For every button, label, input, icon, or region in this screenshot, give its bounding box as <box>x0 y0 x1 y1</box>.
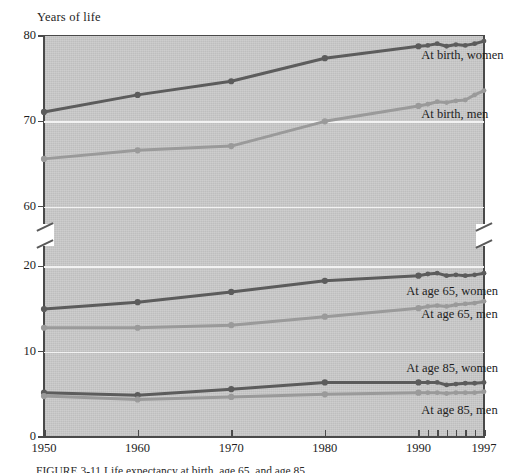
data-point <box>228 289 234 295</box>
data-point <box>41 325 47 331</box>
data-point <box>472 92 477 97</box>
data-point <box>482 299 487 304</box>
data-point <box>472 390 477 395</box>
data-point <box>425 390 430 395</box>
data-point <box>425 380 430 385</box>
data-point <box>228 386 234 392</box>
data-point <box>322 278 328 284</box>
data-point <box>463 98 468 103</box>
data-point <box>41 109 47 115</box>
data-series-layer <box>44 36 484 437</box>
annotation-at-age-85-women: At age 85, women <box>406 361 498 376</box>
data-point <box>482 88 487 93</box>
data-point <box>472 272 477 277</box>
data-point <box>444 391 449 396</box>
x-axis-label-1980: 1980 <box>302 441 348 456</box>
data-point <box>482 389 487 394</box>
data-point <box>454 42 459 47</box>
data-point <box>454 382 459 387</box>
data-point <box>322 391 328 397</box>
data-point <box>322 55 328 61</box>
data-point <box>41 393 47 399</box>
data-point <box>454 272 459 277</box>
data-point <box>425 102 430 107</box>
data-point <box>463 43 468 48</box>
data-point <box>435 390 440 395</box>
annotation-at-birth-men: At birth, men <box>421 107 488 122</box>
annotation-at-age-85-men: At age 85, men <box>421 403 497 418</box>
data-point <box>472 41 477 46</box>
data-point <box>322 118 328 124</box>
figure-caption: FIGURE 3-11 Life expectancy at birth, ag… <box>36 465 496 473</box>
data-point <box>322 314 328 320</box>
data-point <box>228 394 234 400</box>
data-point <box>463 301 468 306</box>
data-point <box>135 325 141 331</box>
y-axis-label-20: 20 <box>8 258 36 273</box>
data-point <box>425 272 430 277</box>
data-point <box>444 383 449 388</box>
data-point <box>435 380 440 385</box>
data-point <box>482 380 487 385</box>
data-point <box>472 381 477 386</box>
data-point <box>415 379 421 385</box>
data-point <box>435 271 440 276</box>
data-point <box>444 100 449 105</box>
data-point <box>228 143 234 149</box>
annotation-at-age-65-women: At age 65, women <box>406 284 498 299</box>
series-at-age-85-men <box>41 389 487 402</box>
data-point <box>415 390 421 396</box>
data-point <box>463 381 468 386</box>
x-axis-label-1997: 1997 <box>461 441 507 456</box>
data-point <box>435 99 440 104</box>
data-point <box>463 390 468 395</box>
y-axis-label-0: 0 <box>8 429 36 444</box>
data-point <box>41 306 47 312</box>
series-line <box>44 41 484 112</box>
data-point <box>228 322 234 328</box>
data-point <box>435 41 440 46</box>
annotation-at-age-65-men: At age 65, men <box>421 307 497 322</box>
data-point <box>454 98 459 103</box>
data-point <box>415 273 421 279</box>
data-point <box>463 273 468 278</box>
annotation-at-birth-women: At birth, women <box>421 48 503 63</box>
y-axis-label-60: 60 <box>8 199 36 214</box>
y-axis-label-70: 70 <box>8 113 36 128</box>
data-point <box>228 78 234 84</box>
x-axis-tick-1997 <box>484 430 486 436</box>
x-axis-label-1990: 1990 <box>395 441 441 456</box>
data-point <box>135 396 141 402</box>
data-point <box>135 147 141 153</box>
data-point <box>482 271 487 276</box>
x-axis-label-1970: 1970 <box>208 441 254 456</box>
data-point <box>454 390 459 395</box>
x-axis-label-1960: 1960 <box>115 441 161 456</box>
data-point <box>41 156 47 162</box>
data-point <box>425 43 430 48</box>
data-point <box>472 301 477 306</box>
data-point <box>135 299 141 305</box>
data-point <box>444 273 449 278</box>
data-point <box>482 39 487 44</box>
y-axis-title: Years of life <box>37 10 101 25</box>
data-point <box>322 379 328 385</box>
data-point <box>135 92 141 98</box>
figure-root: Years of life At birth, womenAt birth, m… <box>0 0 509 473</box>
y-axis-label-10: 10 <box>8 344 36 359</box>
y-axis-label-80: 80 <box>8 28 36 43</box>
